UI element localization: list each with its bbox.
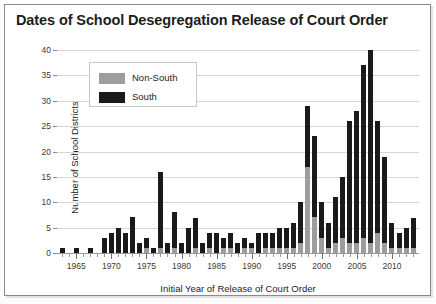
x-axis-tick-label: 1990 <box>242 261 261 271</box>
bar-segment-non-south <box>319 238 324 253</box>
bar-segment-south <box>130 217 135 253</box>
bar-segment-south <box>361 65 366 238</box>
x-axis-major-tick <box>252 253 253 259</box>
bar-segment-south <box>340 177 345 238</box>
x-axis-tick-labels: 1965197019751980198519901995200020052010 <box>57 261 419 275</box>
x-axis-tick-label: 1965 <box>67 261 86 271</box>
bar <box>326 223 331 253</box>
x-axis-minor-tick <box>294 253 295 257</box>
bar-segment-south <box>389 223 394 248</box>
bar-segment-non-south <box>298 243 303 253</box>
bar-segment-non-south <box>382 243 387 253</box>
bar-segment-non-south <box>368 243 373 253</box>
bar-segment-south <box>291 223 296 248</box>
bar-segment-south <box>312 136 317 217</box>
chart-figure: Dates of School Desegregation Release of… <box>0 0 436 304</box>
x-axis-minor-tick <box>413 253 414 257</box>
x-axis-minor-tick <box>399 253 400 257</box>
y-axis-tick-label: 25 <box>27 121 51 131</box>
bar <box>411 217 416 253</box>
bar-segment-south <box>144 238 149 248</box>
bar <box>172 212 177 253</box>
bar-segment-south <box>256 233 261 253</box>
x-axis-title: Initial Year of Release of Court Order <box>57 283 419 294</box>
bar-segment-south <box>102 238 107 253</box>
bar <box>228 233 233 253</box>
bar <box>291 223 296 253</box>
bar <box>130 217 135 253</box>
bar <box>284 228 289 253</box>
bar <box>123 233 128 253</box>
bar-segment-south <box>263 233 268 248</box>
bar-segment-south <box>109 233 114 253</box>
x-axis-minor-tick <box>153 253 154 257</box>
x-axis-major-tick <box>217 253 218 259</box>
bar <box>397 233 402 253</box>
y-axis-tick-label: 15 <box>27 172 51 182</box>
gridline <box>57 50 419 51</box>
x-axis-minor-tick <box>196 253 197 257</box>
bar <box>298 202 303 253</box>
bar <box>200 243 205 253</box>
bar <box>186 228 191 253</box>
y-axis-tick-label: 30 <box>27 96 51 106</box>
x-axis-minor-tick <box>189 253 190 257</box>
bar <box>319 202 324 253</box>
x-axis-major-tick <box>322 253 323 259</box>
x-axis-major-tick <box>76 253 77 259</box>
bar-segment-south <box>158 172 163 248</box>
x-axis-minor-tick <box>245 253 246 257</box>
bar-segment-non-south <box>333 243 338 253</box>
bar-segment-south <box>123 233 128 253</box>
bar-segment-south <box>270 233 275 248</box>
bar <box>165 243 170 253</box>
x-axis-minor-tick <box>69 253 70 257</box>
x-axis-minor-tick <box>160 253 161 257</box>
bar <box>116 228 121 253</box>
bar <box>404 228 409 253</box>
x-axis-minor-tick <box>378 253 379 257</box>
bar <box>312 136 317 253</box>
x-axis-major-tick <box>146 253 147 259</box>
bar-segment-south <box>326 223 331 248</box>
legend-swatch <box>99 92 125 103</box>
bar-segment-south <box>298 202 303 243</box>
bar-segment-south <box>319 202 324 238</box>
x-axis-tick-label: 1985 <box>207 261 226 271</box>
x-axis-minor-tick <box>273 253 274 257</box>
bar <box>340 177 345 253</box>
legend-label: South <box>132 91 157 102</box>
x-axis-minor-tick <box>97 253 98 257</box>
bar <box>242 238 247 253</box>
x-axis-minor-tick <box>238 253 239 257</box>
x-axis-minor-tick <box>90 253 91 257</box>
bar-segment-south <box>347 121 352 243</box>
bar-segment-non-south <box>354 243 359 253</box>
x-axis-minor-tick <box>266 253 267 257</box>
bar-segment-south <box>207 233 212 248</box>
bar-segment-south <box>305 106 310 167</box>
bar-segment-non-south <box>312 217 317 253</box>
bar-segment-non-south <box>375 233 380 253</box>
x-axis-minor-tick <box>139 253 140 257</box>
bar <box>263 233 268 253</box>
x-axis-tick-label: 2010 <box>383 261 402 271</box>
x-axis-major-tick <box>111 253 112 259</box>
bar-segment-south <box>411 218 416 248</box>
bar-segment-south <box>375 121 380 233</box>
x-axis-minor-tick <box>83 253 84 257</box>
x-axis-minor-tick <box>406 253 407 257</box>
x-axis-minor-tick <box>125 253 126 257</box>
bar <box>361 65 366 253</box>
x-axis-minor-tick <box>343 253 344 257</box>
x-axis-minor-tick <box>259 253 260 257</box>
bar <box>137 243 142 253</box>
y-axis-tick-label: 20 <box>27 147 51 157</box>
x-axis-major-tick <box>287 253 288 259</box>
bar-segment-south <box>354 111 359 243</box>
x-axis-tick-label: 2000 <box>312 261 331 271</box>
x-axis-minor-tick <box>385 253 386 257</box>
bar <box>347 121 352 253</box>
legend-swatch <box>99 73 125 84</box>
bar-segment-south <box>382 157 387 243</box>
